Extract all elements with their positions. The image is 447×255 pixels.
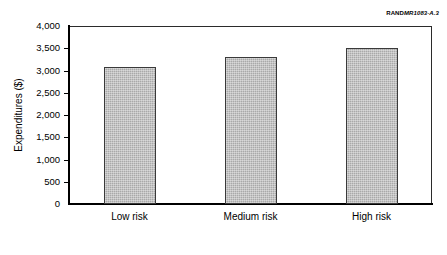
figure-credit: RANDMR1083-A.3 bbox=[386, 10, 439, 16]
bar bbox=[104, 67, 156, 204]
y-axis-tick-label: 1,500 bbox=[22, 133, 60, 143]
x-axis-tick-labels: Low riskMedium riskHigh risk bbox=[69, 210, 432, 230]
y-axis-tick-label: 2,500 bbox=[22, 88, 60, 98]
x-axis-tick-label: High risk bbox=[352, 210, 391, 224]
y-axis-tick-label: 0 bbox=[22, 199, 60, 209]
y-axis-tick-labels: 05001,0001,5002,0002,5003,0003,5004,000 bbox=[22, 0, 60, 255]
figure-bar-chart: RANDMR1083-A.3 Expenditures ($) 05001,00… bbox=[0, 0, 447, 255]
y-axis-tick-label: 500 bbox=[22, 177, 60, 187]
y-axis-tick-label: 2,000 bbox=[22, 110, 60, 120]
y-axis-tick-label: 1,000 bbox=[22, 155, 60, 165]
y-axis-tick-label: 3,500 bbox=[22, 44, 60, 54]
x-axis-tick-label: Low risk bbox=[111, 210, 148, 224]
bar bbox=[225, 57, 277, 204]
figure-id-label: MR1083-A.3 bbox=[404, 10, 439, 16]
bar-series bbox=[69, 26, 432, 204]
bar bbox=[346, 48, 398, 204]
rand-brand-label: RAND bbox=[386, 10, 404, 16]
y-axis-tick-label: 3,000 bbox=[22, 66, 60, 76]
x-axis-tick-label: Medium risk bbox=[224, 210, 278, 224]
y-axis-tick-label: 4,000 bbox=[22, 21, 60, 31]
